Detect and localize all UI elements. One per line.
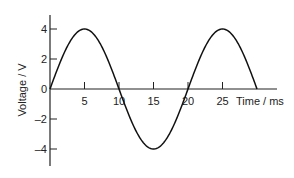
- x-ticks: 510152025: [81, 82, 228, 107]
- y-tick-label: –2: [35, 113, 47, 125]
- x-tick-label: 15: [147, 95, 159, 107]
- y-tick-label: 0: [41, 83, 47, 95]
- y-tick-label: –4: [35, 143, 47, 155]
- y-axis-title: Voltage / V: [16, 63, 28, 117]
- x-tick-label: 25: [216, 95, 228, 107]
- y-tick-label: 4: [41, 23, 47, 35]
- y-tick-label: 2: [41, 53, 47, 65]
- chart: 420–2–4 510152025 Time / ms Voltage / V: [0, 0, 294, 178]
- x-axis-title: Time / ms: [236, 95, 284, 107]
- x-tick-label: 5: [81, 95, 87, 107]
